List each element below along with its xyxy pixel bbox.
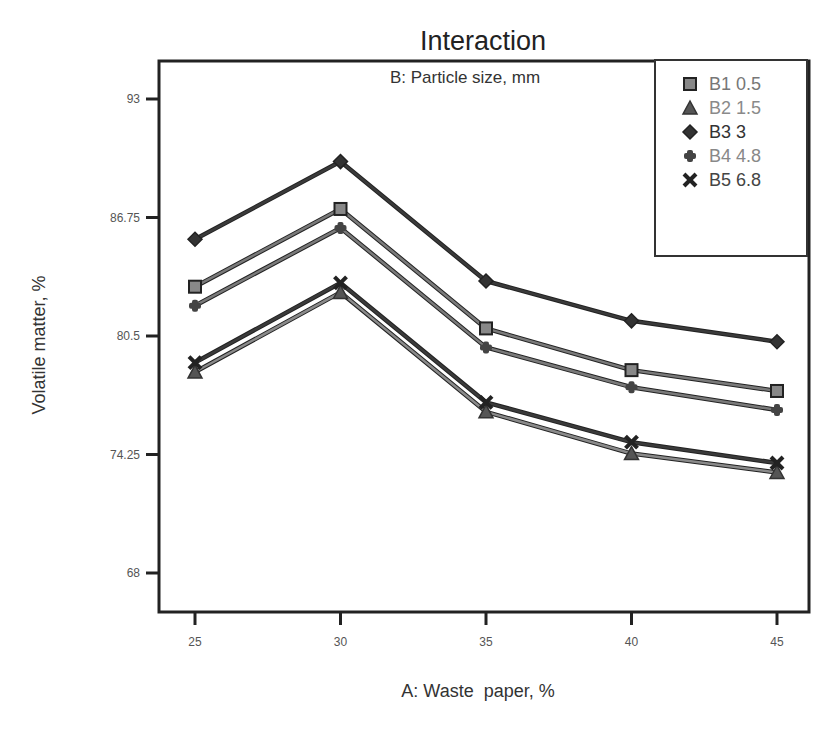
plus-marker-icon bbox=[771, 404, 783, 416]
diamond-marker-icon bbox=[625, 314, 639, 328]
x-tick-label: 40 bbox=[625, 635, 639, 649]
y-tick-label: 86.75 bbox=[110, 211, 140, 225]
diamond-marker-icon bbox=[770, 335, 784, 349]
series-line-outline bbox=[195, 283, 777, 463]
x-tick-label: 30 bbox=[334, 635, 348, 649]
interaction-chart: Interaction B: Particle size, mm 9386.75… bbox=[0, 0, 831, 753]
y-tick-label: 74.25 bbox=[110, 448, 140, 462]
y-tick-label: 80.5 bbox=[117, 329, 141, 343]
y-axis-label: Volatile matter, % bbox=[29, 275, 49, 414]
legend-label: B4 4.8 bbox=[709, 146, 761, 166]
legend-label: B3 3 bbox=[709, 122, 746, 142]
x-tick-label: 35 bbox=[479, 635, 493, 649]
legend-label: B1 0.5 bbox=[709, 74, 761, 94]
legend-label: B2 1.5 bbox=[709, 98, 761, 118]
series-b5 bbox=[189, 277, 783, 469]
square-marker-icon bbox=[189, 281, 201, 293]
y-axis: 9386.7580.574.2568 bbox=[110, 92, 159, 580]
square-marker-icon bbox=[626, 364, 638, 376]
legend-label: B5 6.8 bbox=[709, 170, 761, 190]
plus-marker-icon bbox=[626, 381, 638, 393]
y-tick-label: 93 bbox=[127, 92, 141, 106]
chart-subtitle: B: Particle size, mm bbox=[390, 68, 540, 87]
legend: B1 0.5B2 1.5B3 3B4 4.8B5 6.8 bbox=[655, 60, 807, 256]
x-axis: 2530354045 bbox=[188, 612, 784, 649]
x-tick-label: 45 bbox=[770, 635, 784, 649]
square-marker-icon bbox=[480, 322, 492, 334]
square-marker-icon bbox=[771, 385, 783, 397]
x-tick-label: 25 bbox=[188, 635, 202, 649]
square-marker-icon bbox=[684, 78, 696, 90]
legend-item: B1 0.5 bbox=[684, 74, 761, 94]
x-axis-label: A: Waste paper, % bbox=[401, 681, 554, 701]
chart-title: Interaction bbox=[420, 26, 546, 56]
series-line bbox=[195, 283, 777, 463]
y-tick-label: 68 bbox=[127, 566, 141, 580]
series-line bbox=[195, 292, 777, 472]
square-marker-icon bbox=[335, 203, 347, 215]
series-line-outline bbox=[195, 292, 777, 472]
